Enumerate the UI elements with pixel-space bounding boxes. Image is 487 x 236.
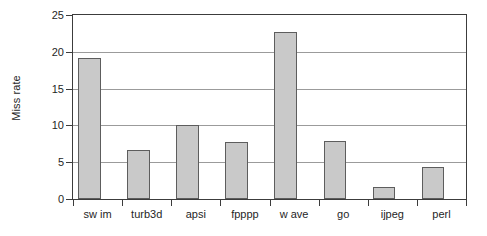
x-tick-mark — [122, 200, 123, 206]
x-tick-label: turb3d — [131, 208, 162, 220]
x-tick-mark — [220, 200, 221, 206]
x-tick-label: w ave — [280, 208, 309, 220]
y-tick-mark — [66, 52, 72, 53]
x-tick-label: perl — [432, 208, 450, 220]
y-tick-label: 25 — [34, 9, 64, 21]
bar — [176, 125, 199, 199]
x-tick-mark — [466, 200, 467, 206]
y-tick-mark — [66, 89, 72, 90]
bar — [78, 58, 101, 199]
x-tick-label: go — [337, 208, 349, 220]
bar — [324, 141, 347, 199]
x-tick-label: apsi — [186, 208, 206, 220]
y-axis-title: Miss rate — [10, 48, 22, 148]
y-tick-label: 15 — [34, 83, 64, 95]
y-tick-label: 0 — [34, 193, 64, 205]
bar — [422, 167, 445, 199]
y-tick-label: 10 — [34, 119, 64, 131]
x-tick-mark — [368, 200, 369, 206]
x-tick-mark — [417, 200, 418, 206]
x-tick-mark — [73, 200, 74, 206]
bar — [225, 142, 248, 199]
y-tick-mark — [66, 15, 72, 16]
x-tick-label: ijpeg — [381, 208, 404, 220]
y-tick-label: 5 — [34, 156, 64, 168]
x-tick-mark — [270, 200, 271, 206]
y-tick-mark — [66, 125, 72, 126]
x-tick-label: sw im — [84, 208, 112, 220]
x-tick-mark — [171, 200, 172, 206]
y-tick-mark — [66, 199, 72, 200]
x-tick-label: fpppp — [231, 208, 259, 220]
bar-chart: Miss rate 0510152025 sw imturb3dapsifppp… — [0, 0, 487, 236]
bar — [373, 187, 396, 199]
y-tick-label: 20 — [34, 46, 64, 58]
bars-group — [73, 15, 466, 199]
x-tick-mark — [319, 200, 320, 206]
bar — [274, 32, 297, 199]
bar — [127, 150, 150, 199]
y-tick-mark — [66, 162, 72, 163]
